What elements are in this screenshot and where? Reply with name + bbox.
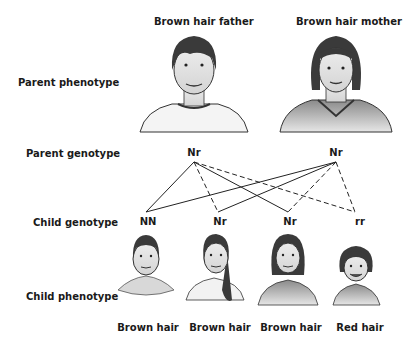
mother-genotype: Nr <box>329 147 342 158</box>
line-mother-r-to-Nr2 <box>288 162 336 212</box>
child-genotype-1: NN <box>140 216 157 227</box>
child-genotype-4: rr <box>355 216 365 227</box>
child-genotype-3: Nr <box>283 216 296 227</box>
child-4-illustration <box>333 246 380 305</box>
inheritance-diagram <box>0 0 406 344</box>
child-3-illustration <box>258 234 318 305</box>
father-illustration <box>140 36 248 132</box>
line-mother-r-to-rr <box>336 162 355 212</box>
inheritance-lines <box>146 162 355 212</box>
child-genotype-2: Nr <box>213 216 226 227</box>
child-phenotype-2: Brown hair <box>189 322 251 333</box>
line-mother-N-to-Nr1 <box>218 162 336 212</box>
line-father-r-to-Nr1 <box>194 162 218 212</box>
mother-illustration <box>280 36 392 132</box>
child-phenotype-3: Brown hair <box>260 322 322 333</box>
child-phenotype-1: Brown hair <box>117 322 179 333</box>
father-genotype: Nr <box>187 147 200 158</box>
child-1-illustration <box>118 235 174 295</box>
child-2-illustration <box>186 234 244 301</box>
child-phenotype-4: Red hair <box>336 322 383 333</box>
line-father-N-to-NN <box>146 162 194 212</box>
